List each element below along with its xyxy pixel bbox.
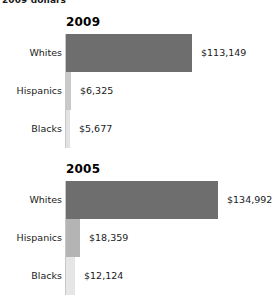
category-label: Hispanics xyxy=(0,219,62,257)
category-label: Blacks xyxy=(0,110,62,148)
bar-hispanics-2005 xyxy=(66,219,80,257)
bar-blacks-2009 xyxy=(66,110,70,148)
plot-area-2005: Whites $134,992 Hispanics $18,359 Blacks… xyxy=(0,181,275,295)
bar-track xyxy=(66,72,71,110)
bar-value-label: $12,124 xyxy=(84,257,123,295)
category-label: Whites xyxy=(0,181,62,219)
chart-subtitle: 2009 dollars xyxy=(2,0,66,5)
bar-track xyxy=(66,34,192,72)
bar-track xyxy=(66,110,70,148)
bar-whites-2009 xyxy=(66,34,192,72)
bar-row: Hispanics $6,325 xyxy=(0,72,275,110)
plot-area-2009: Whites $113,149 Hispanics $6,325 Blacks … xyxy=(0,34,275,148)
panel-year-label: 2009 xyxy=(66,15,100,29)
bar-row: Whites $134,992 xyxy=(0,181,275,219)
bar-row: Blacks $12,124 xyxy=(0,257,275,295)
bar-track xyxy=(66,181,218,219)
bar-value-label: $6,325 xyxy=(80,72,113,110)
bar-value-label: $5,677 xyxy=(79,110,112,148)
bar-track xyxy=(66,219,80,257)
bar-row: Blacks $5,677 xyxy=(0,110,275,148)
category-label: Whites xyxy=(0,34,62,72)
bar-row: Whites $113,149 xyxy=(0,34,275,72)
bar-value-label: $113,149 xyxy=(201,34,246,72)
bar-blacks-2005 xyxy=(66,257,75,295)
bar-hispanics-2009 xyxy=(66,72,71,110)
category-label: Blacks xyxy=(0,257,62,295)
bar-value-label: $134,992 xyxy=(227,181,272,219)
bar-track xyxy=(66,257,75,295)
category-label: Hispanics xyxy=(0,72,62,110)
bar-row: Hispanics $18,359 xyxy=(0,219,275,257)
bar-value-label: $18,359 xyxy=(89,219,128,257)
panel-year-label: 2005 xyxy=(66,162,100,176)
net-worth-bar-chart: 2009 dollars 2009 Whites $113,149 Hispan… xyxy=(0,0,275,306)
bar-whites-2005 xyxy=(66,181,218,219)
